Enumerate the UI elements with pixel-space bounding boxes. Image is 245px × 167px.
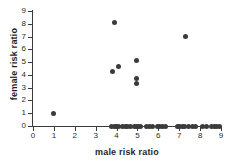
data-point xyxy=(110,69,115,74)
y-axis-tick-label: 9 xyxy=(14,7,26,15)
y-axis-tick-label: 3 xyxy=(14,84,26,92)
y-axis-tick xyxy=(28,88,32,89)
data-point xyxy=(183,34,188,39)
data-point xyxy=(134,81,139,86)
y-axis-tick-label: 0 xyxy=(14,122,26,130)
x-axis-title: male risk ratio xyxy=(33,147,221,157)
x-axis-tick-label: 7 xyxy=(172,132,186,140)
y-axis-tick xyxy=(28,100,32,101)
data-point xyxy=(163,124,168,129)
data-point xyxy=(138,124,143,129)
y-axis-tick-label: 1 xyxy=(14,109,26,117)
y-axis-tick xyxy=(28,11,32,12)
x-axis-tick-label: 4 xyxy=(110,132,124,140)
x-axis-tick-label: 5 xyxy=(130,132,144,140)
y-axis-tick-label: 8 xyxy=(14,20,26,28)
data-point xyxy=(51,111,56,116)
plot-area xyxy=(33,11,221,126)
x-axis-tick-label: 3 xyxy=(89,132,103,140)
x-axis-tick-label: 8 xyxy=(193,132,207,140)
y-axis-tick xyxy=(28,126,32,127)
y-axis-tick xyxy=(28,24,32,25)
y-axis-tick-label: 7 xyxy=(14,33,26,41)
x-axis-tick-label: 2 xyxy=(68,132,82,140)
y-axis-tick-label: 4 xyxy=(14,71,26,79)
data-point xyxy=(134,58,139,63)
y-axis-tick xyxy=(28,113,32,114)
y-axis-tick-label: 2 xyxy=(14,96,26,104)
y-axis-tick xyxy=(28,75,32,76)
scatter-plot-figure: male risk ratio female risk ratio 012345… xyxy=(0,0,245,167)
y-axis-tick xyxy=(28,62,32,63)
x-axis-tick-label: 0 xyxy=(26,132,40,140)
y-axis-tick xyxy=(28,37,32,38)
x-axis-tick-label: 6 xyxy=(151,132,165,140)
x-axis-tick-label: 9 xyxy=(214,132,228,140)
y-axis-tick-label: 5 xyxy=(14,58,26,66)
y-axis-tick xyxy=(28,49,32,50)
data-point xyxy=(193,124,198,129)
data-point xyxy=(134,76,139,81)
data-point xyxy=(112,20,117,25)
y-axis-tick-label: 6 xyxy=(14,45,26,53)
data-point xyxy=(116,64,121,69)
x-axis-tick-label: 1 xyxy=(47,132,61,140)
